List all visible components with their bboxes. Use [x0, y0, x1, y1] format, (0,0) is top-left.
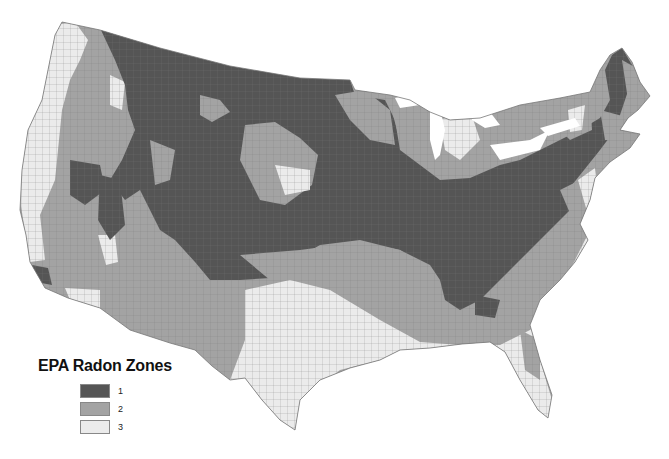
legend-item-zone-1: 1: [80, 384, 123, 398]
zone-3-label: 3: [118, 422, 123, 432]
zone-2-label: 2: [118, 404, 123, 414]
zone-1-label: 1: [118, 386, 123, 396]
zone-1-swatch: [80, 384, 110, 398]
legend-title: EPA Radon Zones: [38, 357, 172, 375]
legend: EPA Radon Zones: [38, 357, 172, 375]
zone-3-swatch: [80, 420, 110, 434]
zone-2-swatch: [80, 402, 110, 416]
legend-item-zone-2: 2: [80, 402, 123, 416]
legend-item-zone-3: 3: [80, 420, 123, 434]
